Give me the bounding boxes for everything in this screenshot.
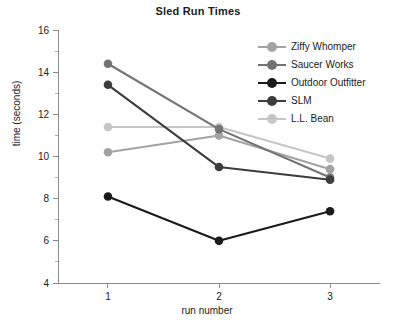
legend-dot-icon — [267, 96, 277, 106]
legend-swatch-icon — [258, 76, 286, 90]
data-point — [215, 125, 224, 134]
data-point — [326, 207, 335, 216]
series-line — [108, 197, 330, 241]
legend-item[interactable]: Outdoor Outfitter — [258, 74, 396, 92]
legend-swatch-icon — [258, 40, 286, 54]
legend-dot-icon — [267, 78, 277, 88]
y-tick-label: 14 — [38, 67, 50, 78]
data-point — [215, 163, 224, 172]
x-tick-label: 1 — [105, 291, 111, 302]
legend-label: Saucer Works — [291, 59, 354, 71]
legend-label: L.L. Bean — [291, 113, 334, 125]
series-outdoor-outfitter — [104, 192, 335, 245]
data-point — [104, 192, 113, 201]
y-axis-ticks: 46810121416 — [38, 25, 58, 289]
legend: Ziffy WhomperSaucer WorksOutdoor Outfitt… — [258, 38, 396, 128]
data-point — [104, 123, 113, 132]
legend-item[interactable]: SLM — [258, 92, 396, 110]
legend-dot-icon — [267, 114, 277, 124]
y-tick-label: 4 — [43, 278, 49, 289]
legend-label: SLM — [291, 95, 312, 107]
data-point — [104, 59, 113, 68]
y-tick-label: 16 — [38, 25, 50, 36]
legend-label: Ziffy Whomper — [291, 41, 356, 53]
x-axis-title: run number — [47, 305, 367, 316]
data-point — [215, 237, 224, 246]
y-tick-label: 10 — [38, 151, 50, 162]
legend-item[interactable]: Ziffy Whomper — [258, 38, 396, 56]
data-point — [104, 81, 113, 90]
legend-dot-icon — [267, 42, 277, 52]
data-point — [326, 175, 335, 184]
legend-item[interactable]: Saucer Works — [258, 56, 396, 74]
legend-label: Outdoor Outfitter — [291, 77, 365, 89]
data-point — [326, 154, 335, 163]
legend-swatch-icon — [258, 58, 286, 72]
legend-dot-icon — [267, 60, 277, 70]
x-tick-label: 2 — [216, 291, 222, 302]
data-point — [326, 165, 335, 174]
x-axis-ticks: 123 — [105, 283, 333, 302]
x-tick-label: 3 — [327, 291, 333, 302]
legend-item[interactable]: L.L. Bean — [258, 110, 396, 128]
legend-swatch-icon — [258, 94, 286, 108]
chart-container: Sled Run Times time (seconds) 4681012141… — [0, 0, 396, 327]
legend-swatch-icon — [258, 112, 286, 126]
y-tick-label: 6 — [43, 235, 49, 246]
y-tick-label: 8 — [43, 193, 49, 204]
y-tick-label: 12 — [38, 109, 50, 120]
data-point — [104, 148, 113, 157]
